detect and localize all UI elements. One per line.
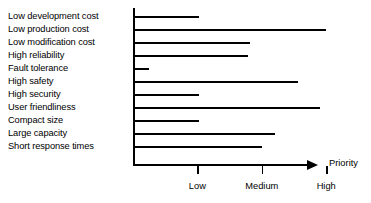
priority-bar-chart: Low development costLow production costL…: [0, 0, 371, 203]
plot-area: Priority LowMediumHigh: [0, 0, 371, 203]
bar: [133, 107, 320, 110]
x-axis-tick: [262, 166, 264, 174]
bar: [133, 68, 149, 71]
bar: [133, 55, 248, 58]
bar: [133, 133, 275, 136]
x-axis-tick-label: High: [317, 181, 336, 192]
bar: [133, 120, 199, 123]
bar: [133, 42, 250, 45]
priority-axis-title: Priority: [329, 158, 358, 169]
bar: [133, 94, 199, 97]
bar: [133, 29, 326, 32]
x-axis-tick-label: Medium: [245, 181, 278, 192]
bar: [133, 16, 199, 19]
x-axis-tick: [326, 166, 328, 174]
x-axis-tick-label: Low: [189, 181, 206, 192]
x-axis-tick: [197, 166, 199, 174]
bar: [133, 146, 262, 149]
bar: [133, 81, 298, 84]
priority-axis-line: [133, 164, 315, 166]
category-axis-line: [133, 8, 135, 166]
axis-arrow-icon: [307, 160, 318, 170]
